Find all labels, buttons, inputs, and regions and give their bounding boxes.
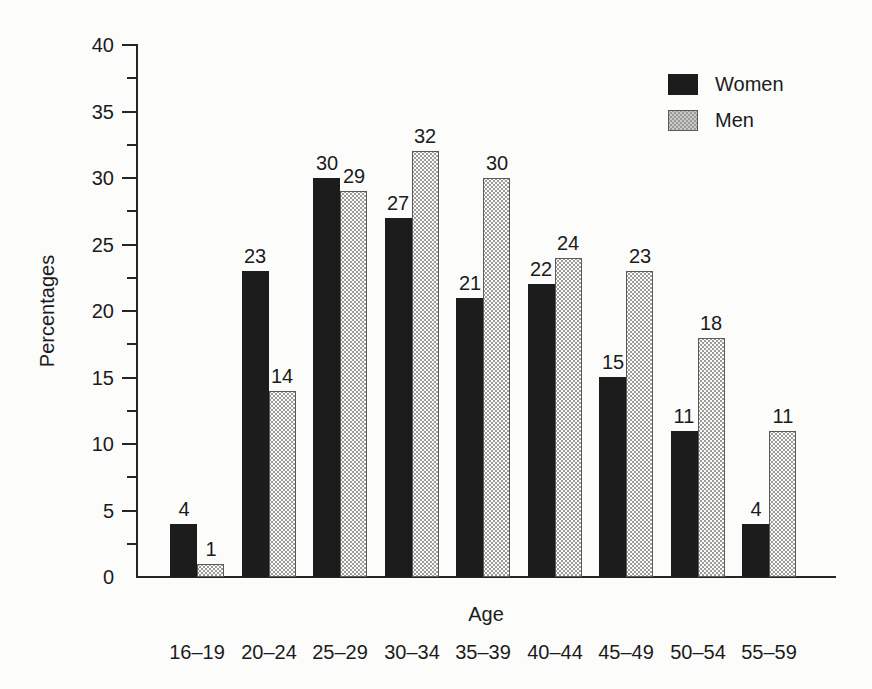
value-label-women-20-24: 23 — [225, 245, 285, 267]
bar-men-20-24 — [269, 391, 296, 577]
value-label-men-40-44: 24 — [538, 232, 598, 254]
y-tick-label-35: 35 — [70, 102, 114, 122]
bar-women-55-59 — [742, 524, 769, 577]
y-tick-label-0: 0 — [70, 567, 114, 587]
x-axis-title: Age — [446, 603, 526, 626]
bar-men-35-39 — [483, 178, 510, 577]
bar-men-45-49 — [626, 271, 653, 577]
y-tick-10 — [122, 443, 137, 445]
value-label-women-16-19: 4 — [154, 498, 214, 520]
bar-women-50-54 — [671, 431, 698, 577]
bar-men-30-34 — [412, 151, 439, 577]
bar-women-25-29 — [313, 178, 340, 577]
y-tick-7.5 — [127, 476, 137, 478]
men-swatch-icon — [668, 110, 698, 131]
y-tick-label-25: 25 — [70, 235, 114, 255]
value-label-men-55-59: 11 — [753, 405, 813, 427]
y-tick-32.5 — [127, 144, 137, 146]
bar-women-45-49 — [599, 377, 626, 577]
value-label-men-45-49: 23 — [610, 245, 670, 267]
x-category-label-25-29: 25–29 — [300, 641, 380, 664]
bar-men-25-29 — [340, 191, 367, 577]
y-tick-37.5 — [127, 77, 137, 79]
value-label-men-50-54: 18 — [681, 312, 741, 334]
bar-men-40-44 — [555, 258, 582, 577]
value-label-men-16-19: 1 — [181, 538, 241, 560]
value-label-men-25-29: 29 — [324, 165, 384, 187]
y-tick-27.5 — [127, 210, 137, 212]
y-tick-22.5 — [127, 277, 137, 279]
x-category-label-35-39: 35–39 — [443, 641, 523, 664]
value-label-men-30-34: 32 — [395, 125, 455, 147]
y-tick-label-5: 5 — [70, 501, 114, 521]
x-category-label-50-54: 50–54 — [658, 641, 738, 664]
y-tick-label-20: 20 — [70, 301, 114, 321]
legend-item-men: Men — [668, 109, 784, 132]
x-category-label-40-44: 40–44 — [515, 641, 595, 664]
y-tick-15 — [122, 377, 137, 379]
x-category-label-30-34: 30–34 — [372, 641, 452, 664]
bar-women-35-39 — [456, 298, 483, 577]
y-tick-20 — [122, 310, 137, 312]
y-tick-label-40: 40 — [70, 35, 114, 55]
bar-women-30-34 — [385, 218, 412, 577]
bar-men-50-54 — [698, 338, 725, 577]
bar-chart-figure: Percentages 05101520253035404116–1923142… — [0, 0, 872, 689]
legend: Women Men — [668, 73, 784, 145]
y-tick-label-15: 15 — [70, 368, 114, 388]
x-category-label-45-49: 45–49 — [586, 641, 666, 664]
x-category-label-16-19: 16–19 — [157, 641, 237, 664]
bar-men-16-19 — [197, 564, 224, 577]
y-tick-40 — [122, 44, 137, 46]
women-swatch-icon — [668, 74, 698, 95]
legend-label-women: Women — [715, 73, 784, 96]
y-tick-25 — [122, 244, 137, 246]
bar-women-40-44 — [528, 284, 555, 577]
y-tick-12.5 — [127, 410, 137, 412]
value-label-men-20-24: 14 — [252, 365, 312, 387]
y-axis-title: Percentages — [36, 255, 59, 367]
y-tick-35 — [122, 111, 137, 113]
y-tick-5 — [122, 510, 137, 512]
x-category-label-55-59: 55–59 — [729, 641, 809, 664]
bar-women-20-24 — [242, 271, 269, 577]
x-category-label-20-24: 20–24 — [229, 641, 309, 664]
y-tick-30 — [122, 177, 137, 179]
bar-men-55-59 — [769, 431, 796, 577]
legend-item-women: Women — [668, 73, 784, 96]
value-label-men-35-39: 30 — [467, 152, 527, 174]
y-tick-label-10: 10 — [70, 434, 114, 454]
legend-label-men: Men — [715, 109, 754, 132]
y-tick-label-30: 30 — [70, 168, 114, 188]
y-tick-17.5 — [127, 343, 137, 345]
y-tick-2.5 — [127, 543, 137, 545]
